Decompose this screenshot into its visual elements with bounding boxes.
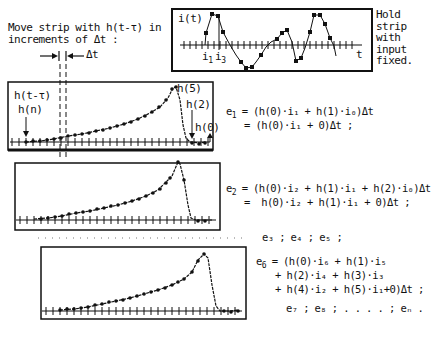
input-xlabel: t <box>356 49 362 61</box>
strip1-h-curve <box>26 87 206 143</box>
equation-e7-en: e₇ ; e₈ ; . . . . ; eₙ . <box>286 302 423 314</box>
equation-e6-line2: + h(2)·i₄ + h(3)·i₃ <box>275 269 384 281</box>
equation-e6-line3: + h(4)·i₂ + h(5)·i₁+0)Δt ; <box>275 283 424 295</box>
hold-note: Hold strip with input fixed. <box>376 9 413 67</box>
strip1-label-h0: h(0) <box>195 122 220 134</box>
strip2-h-curve <box>34 162 212 220</box>
strip1-label-h-n: h(n) <box>18 104 43 116</box>
strip1-label-h5: h(5) <box>177 83 202 95</box>
strip3-h-curve <box>60 254 238 311</box>
equation-e1-line2: = (h(0)·i₁ + 0)Δt ; <box>244 119 353 131</box>
input-mark-i3: i3 <box>215 51 225 67</box>
instruction-line2: increments of Δt : <box>8 34 118 46</box>
input-mark-i1: i1 <box>202 51 212 67</box>
dt-label: Δt <box>86 49 98 61</box>
input-ylabel: i(t) <box>178 13 203 25</box>
strip1-label-h-t-tau: h(t-τ) <box>14 90 51 102</box>
equation-e2-line2: = h(0)·i₂ + h(1)·i₁ + 0)Δt ; <box>244 196 410 208</box>
equation-e3-e5: e₃ ; e₄ ; e₅ ; <box>262 231 342 243</box>
strip2-points <box>39 160 207 223</box>
strip3-points <box>58 252 240 314</box>
strip1-label-h2: h(2) <box>186 99 211 111</box>
